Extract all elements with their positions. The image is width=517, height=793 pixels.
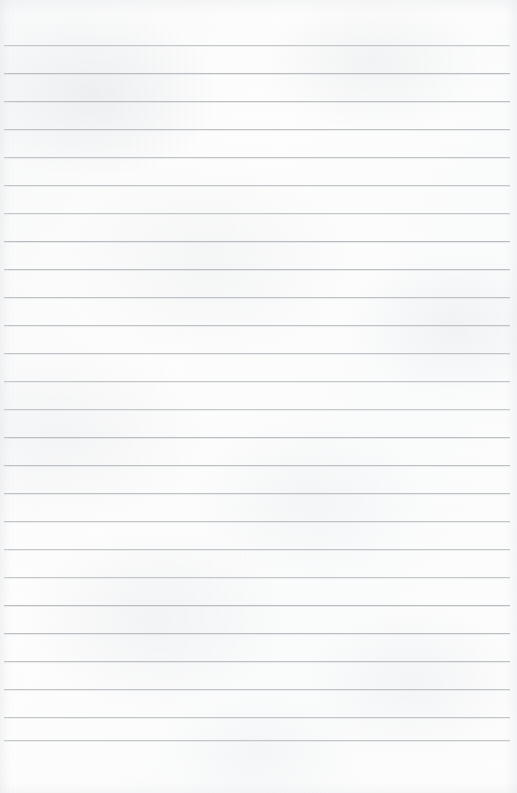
ruled-paper-page: [0, 0, 517, 793]
writing-area[interactable]: [4, 45, 510, 745]
